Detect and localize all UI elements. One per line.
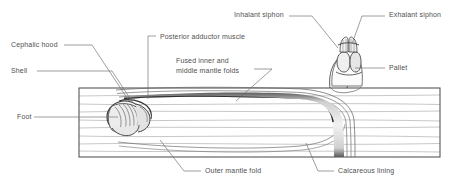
siphon-tips [338, 37, 359, 52]
illustration-canvas [0, 0, 467, 187]
label-outer-mantle-fold: Outer mantle fold [205, 166, 261, 175]
label-calcareous-lining: Calcareous lining [338, 166, 394, 175]
leader-inhalant-siphon [289, 16, 338, 48]
label-shell: Shell [11, 66, 27, 75]
label-foot: Foot [17, 112, 32, 121]
siphon-assembly [330, 37, 363, 93]
label-fused-folds-line1: Fused inner and [176, 56, 229, 65]
label-pallet: Pallet [389, 63, 407, 72]
shipworm-anatomy-figure: Cephalic hood Shell Foot Posterior adduc… [0, 0, 467, 187]
label-exhalant-siphon: Exhalant siphon [389, 10, 441, 19]
leader-exhalant-siphon [352, 16, 385, 44]
label-fused-folds-line2: middle mantle folds [176, 66, 239, 75]
label-cephalic-hood: Cephalic hood [11, 40, 58, 49]
label-posterior-adductor-muscle: Posterior adductor muscle [160, 32, 245, 41]
label-inhalant-siphon: Inhalant siphon [234, 10, 284, 19]
